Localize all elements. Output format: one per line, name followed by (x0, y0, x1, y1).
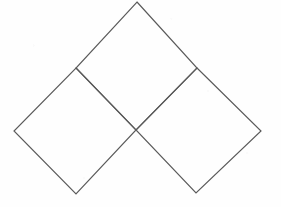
square-bottom-left (14, 68, 136, 194)
square-top (76, 2, 197, 130)
square-bottom-right (136, 68, 261, 193)
figure-canvas (0, 0, 281, 207)
three-squares-diagram (0, 0, 281, 207)
